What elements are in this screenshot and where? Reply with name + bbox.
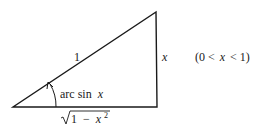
- angle-arc: [50, 84, 56, 107]
- adjacent-label: 1 − x 2: [61, 111, 110, 126]
- triangle-diagram: 1 x arc sin x 1 − x 2 (0 < x < 1): [0, 0, 265, 135]
- domain-condition: (0 < x < 1): [195, 50, 250, 64]
- angle-label: arc sin x: [60, 87, 104, 101]
- hypotenuse-label: 1: [74, 50, 80, 64]
- svg-text:1 − x 2: 1 − x 2: [71, 111, 108, 126]
- opposite-label: x: [161, 50, 168, 64]
